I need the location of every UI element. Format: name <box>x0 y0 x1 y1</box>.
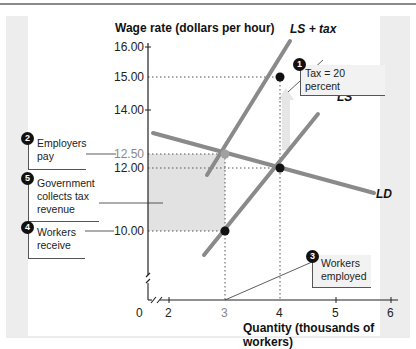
ls-tax-curve <box>207 41 290 175</box>
ld-label: LD <box>376 187 392 201</box>
x-tick-4: 4 <box>276 306 283 320</box>
badge-4: 4 <box>21 221 34 234</box>
point-lstax-q4 <box>276 73 285 82</box>
callout-workers-receive: Workers receive <box>28 224 85 259</box>
point-employers-pay <box>221 150 230 159</box>
badge-5: 5 <box>21 172 34 185</box>
callout-tax-percent: Tax = 20 percent <box>300 65 385 96</box>
ls-tax-label: LS + tax <box>290 22 336 36</box>
y-tick-12: 12.00 <box>114 161 144 175</box>
badge-2: 2 <box>21 132 34 145</box>
x-axis-label: Quantity (thousands of workers) <box>243 321 416 349</box>
callout-workers-employed: Workers employed <box>312 255 371 288</box>
y-tick-10: 10.00 <box>114 224 144 238</box>
y-tick-16: 16.00 <box>114 40 144 54</box>
badge-1: 1 <box>293 58 306 71</box>
callout-tax-text: Tax = 20 percent <box>305 67 345 92</box>
callout-government-revenue: Government collects tax revenue <box>28 175 99 222</box>
x-tick-6: 6 <box>387 306 394 320</box>
y-axis-break-icon <box>146 273 150 300</box>
point-equilibrium <box>276 164 285 173</box>
callout-employers-pay: Employers pay <box>28 135 86 170</box>
x-tick-5: 5 <box>332 306 339 320</box>
y-tick-12-50: 12.50 <box>114 147 144 161</box>
badge-3: 3 <box>306 250 319 263</box>
x-tick-0: 0 <box>136 306 143 320</box>
y-tick-14: 14.00 <box>114 103 144 117</box>
y-tick-15: 15.00 <box>114 70 144 84</box>
point-workers-receive <box>221 227 230 236</box>
x-tick-3: 3 <box>221 306 228 320</box>
y-axis-label: Wage rate (dollars per hour) <box>115 21 275 35</box>
x-tick-2: 2 <box>165 306 172 320</box>
